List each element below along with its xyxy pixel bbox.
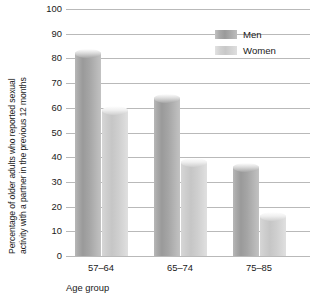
bar-women-65-74: [181, 161, 207, 256]
bar-top-cap: [233, 163, 259, 172]
legend-swatch-men-icon: [215, 30, 237, 39]
bar-top-cap: [75, 49, 101, 58]
x-axis-tick-label: 75–85: [224, 262, 294, 273]
y-axis-title-line-1: Percentage of older adults who reported …: [8, 78, 17, 254]
bar-top-cap: [260, 212, 286, 221]
y-axis-tick-label: 0: [38, 251, 62, 261]
x-axis-title: Age group: [66, 282, 109, 293]
bar-women-75-85: [260, 215, 286, 256]
y-axis-title-line-2: activity with a partner in the previous …: [19, 77, 28, 254]
bar-men-75-85: [233, 166, 259, 256]
y-axis-tick-label: 10: [38, 226, 62, 236]
x-axis-tick-label: 57–64: [66, 262, 136, 273]
bar-men-57-64: [75, 52, 101, 256]
y-axis-tick-label: 100: [38, 4, 62, 14]
legend-swatch-women-icon: [215, 46, 237, 55]
legend-item-men: Men: [215, 28, 295, 41]
bar-top-cap: [154, 94, 180, 103]
legend-item-women: Women: [215, 44, 295, 57]
bar-top-cap: [181, 158, 207, 167]
y-axis-tick-label: 20: [38, 202, 62, 212]
gridline: [66, 256, 310, 257]
bar-group: [75, 9, 128, 256]
y-axis-tick-label: 90: [38, 29, 62, 39]
y-axis-tick-label: 80: [38, 53, 62, 63]
y-axis-tick-labels: 1009080706050403020100: [38, 0, 62, 302]
bar-women-57-64: [102, 109, 128, 256]
y-axis-tick-label: 30: [38, 177, 62, 187]
x-axis-tick-label: 65–74: [145, 262, 215, 273]
bar-chart: Percentage of older adults who reported …: [0, 0, 318, 302]
legend-label-women: Women: [243, 45, 276, 56]
bar-men-65-74: [154, 97, 180, 256]
legend-label-men: Men: [243, 29, 262, 40]
y-axis-tick-label: 40: [38, 152, 62, 162]
legend: Men Women: [215, 28, 295, 60]
bar-group: [154, 9, 207, 256]
y-axis-tick-label: 70: [38, 78, 62, 88]
y-axis-tick-label: 50: [38, 128, 62, 138]
y-axis-tick-label: 60: [38, 103, 62, 113]
bar-top-cap: [102, 106, 128, 115]
